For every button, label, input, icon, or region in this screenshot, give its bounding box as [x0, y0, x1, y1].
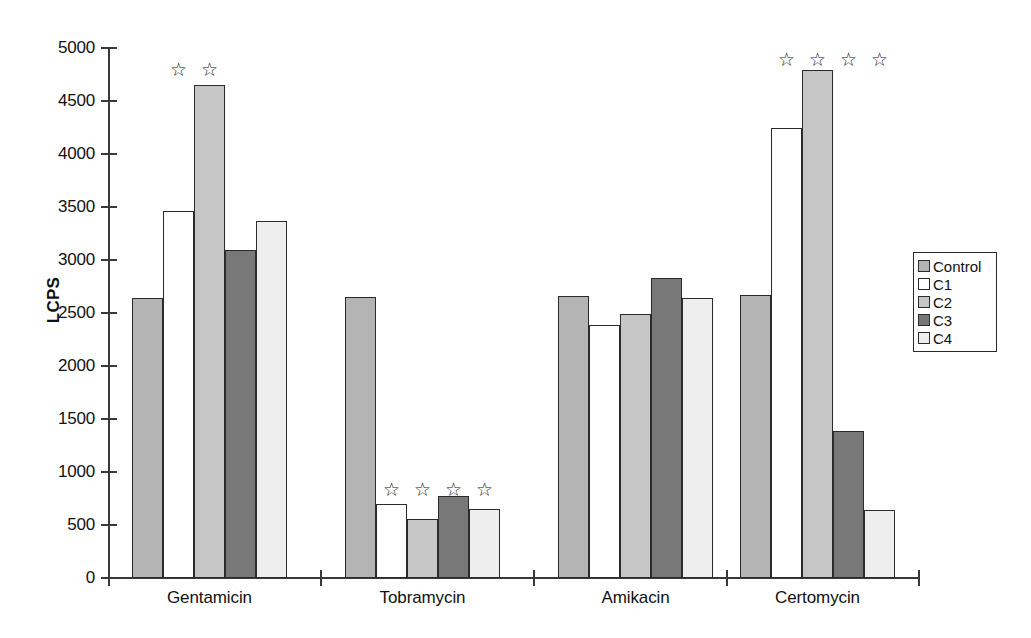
significance-star-icon: ☆	[838, 50, 860, 69]
y-axis-tick-label-text: 0	[33, 568, 95, 588]
legend-item-label: C2	[933, 295, 952, 310]
significance-star-icon: ☆	[443, 480, 465, 499]
y-axis-tick	[101, 312, 117, 314]
y-axis-tick	[101, 418, 117, 420]
bar	[132, 298, 163, 578]
y-axis-tick	[101, 524, 117, 526]
x-axis-group-label: Tobramycin	[325, 588, 520, 608]
x-axis-tick	[320, 570, 322, 586]
y-axis-tick-label-text: 1000	[33, 462, 95, 482]
x-axis-tick	[108, 570, 110, 586]
x-axis-group-label: Gentamicin	[112, 588, 307, 608]
bar	[225, 250, 256, 578]
x-axis-tick	[726, 570, 728, 586]
y-axis-title: LCPS	[44, 240, 64, 360]
legend-item-label: C3	[933, 313, 952, 328]
bar	[194, 85, 225, 578]
significance-star-icon: ☆	[381, 480, 403, 499]
significance-star-icon: ☆	[168, 60, 190, 79]
significance-star-icon: ☆	[412, 480, 434, 499]
legend-swatch-icon	[918, 278, 930, 290]
legend-item-label: Control	[933, 259, 981, 274]
legend-item: C2	[918, 293, 992, 311]
legend-item: C4	[918, 329, 992, 347]
y-axis-tick	[101, 365, 117, 367]
bar	[682, 298, 713, 578]
bar	[589, 325, 620, 578]
significance-star-icon: ☆	[776, 50, 798, 69]
legend-item: Control	[918, 257, 992, 275]
significance-star-icon: ☆	[199, 60, 221, 79]
bar	[651, 278, 682, 578]
y-axis-tick-label-text: 3500	[33, 197, 95, 217]
legend-item-label: C4	[933, 331, 952, 346]
x-axis-tick	[918, 570, 920, 586]
bar	[438, 496, 469, 578]
legend-item: C3	[918, 311, 992, 329]
y-axis-tick-label: 4000	[20, 144, 95, 164]
bar	[620, 314, 651, 578]
bar	[864, 510, 895, 578]
y-axis-tick-label: 0	[20, 568, 95, 588]
y-axis-tick	[101, 471, 117, 473]
y-axis-tick-label-text: 5000	[33, 38, 95, 58]
y-axis-tick-label-text: 2500	[33, 303, 95, 323]
y-axis-tick-label-text: 2000	[33, 356, 95, 376]
legend-swatch-icon	[918, 296, 930, 308]
y-axis-tick-label: 500	[20, 515, 95, 535]
y-axis-tick-label: 1500	[20, 409, 95, 429]
y-axis-tick-label-text: 500	[33, 515, 95, 535]
y-axis-tick	[101, 153, 117, 155]
legend-swatch-icon	[918, 314, 930, 326]
significance-star-icon: ☆	[869, 50, 891, 69]
y-axis-tick-label: 1000	[20, 462, 95, 482]
bar	[345, 297, 376, 578]
y-axis-tick-label: 4500	[20, 91, 95, 111]
y-axis-tick	[101, 206, 117, 208]
legend-swatch-icon	[918, 332, 930, 344]
legend-item: C1	[918, 275, 992, 293]
chart-legend: ControlC1C2C3C4	[913, 252, 997, 352]
y-axis-tick-label: 5000	[20, 38, 95, 58]
y-axis-tick	[101, 259, 117, 261]
bar-chart-figure: 5000450040003500300025002000150010005000…	[0, 0, 1031, 638]
legend-swatch-icon	[918, 260, 930, 272]
y-axis-tick-label-text: 3000	[33, 250, 95, 270]
legend-item-label: C1	[933, 277, 952, 292]
bar	[558, 296, 589, 578]
bar	[376, 504, 407, 578]
bar	[407, 519, 438, 578]
bar	[256, 221, 287, 578]
y-axis-tick-label-text: 4500	[33, 91, 95, 111]
y-axis-tick	[101, 100, 117, 102]
x-axis-group-label: Amikacin	[538, 588, 733, 608]
y-axis-tick	[101, 47, 117, 49]
x-axis-group-label: Certomycin	[720, 588, 915, 608]
y-axis-tick-label: 3500	[20, 197, 95, 217]
bar	[469, 509, 500, 578]
significance-star-icon: ☆	[474, 480, 496, 499]
y-axis-tick-label-text: 4000	[33, 144, 95, 164]
bar	[163, 211, 194, 578]
bar	[833, 431, 864, 578]
significance-star-icon: ☆	[807, 50, 829, 69]
bar	[771, 128, 802, 578]
y-axis-tick-label-text: 1500	[33, 409, 95, 429]
bar	[740, 295, 771, 578]
bar	[802, 70, 833, 578]
x-axis-tick	[533, 570, 535, 586]
